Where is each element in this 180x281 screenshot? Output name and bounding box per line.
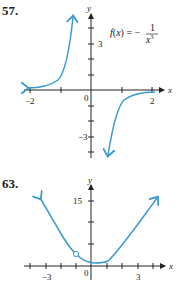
x-axis-label: x (168, 261, 173, 271)
y-axis-label: y (86, 3, 91, 13)
y-axis-label: y (87, 175, 92, 185)
parabola-curve (40, 198, 157, 263)
left-branch-curve (27, 17, 73, 88)
origin-label: 0 (84, 93, 89, 103)
graph-63: −3 0 3 15 x y (24, 175, 173, 281)
right-branch-curve (108, 92, 155, 155)
y-tick-label: 3 (98, 39, 103, 49)
fraction-numerator: 1 (150, 22, 155, 33)
y-tick-label: 15 (73, 196, 83, 206)
graphs: −2 0 2 3 −3 x y f(x) = − 1 x3 (0, 0, 180, 281)
x-tick-label: −2 (25, 96, 35, 106)
graph-57: −2 0 2 3 −3 x y f(x) = − 1 x3 (24, 3, 172, 158)
x-tick-label: 2 (150, 96, 155, 106)
function-label: f(x) = − (110, 27, 141, 39)
x-axis-label: x (167, 85, 172, 95)
x-tick-label: 3 (136, 272, 141, 281)
x-tick-label: −3 (42, 272, 52, 281)
origin-label: 0 (84, 268, 89, 278)
y-tick-label: −3 (78, 132, 88, 142)
fraction-denominator: x3 (145, 34, 153, 45)
open-circle-point (73, 251, 78, 256)
